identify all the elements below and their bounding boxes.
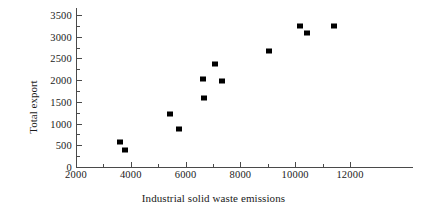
data-point — [266, 48, 272, 53]
y-tick-2500 — [77, 58, 82, 59]
y-tick-label-3000: 3000 — [50, 31, 72, 42]
scatter-plot-figure: 2000400060008000100001200005001000150020… — [0, 0, 427, 214]
x-minor-tick-7000 — [213, 164, 214, 167]
x-tick-4000 — [131, 162, 132, 167]
data-point — [117, 139, 123, 144]
y-tick-0 — [77, 167, 82, 168]
x-minor-tick-5000 — [158, 164, 159, 167]
x-tick-label-4000: 4000 — [120, 169, 142, 180]
y-axis-line — [76, 8, 77, 167]
y-minor-tick-250 — [77, 156, 80, 157]
y-tick-label-500: 500 — [56, 140, 72, 151]
data-point — [176, 127, 182, 132]
y-minor-tick-1250 — [77, 113, 80, 114]
data-point — [212, 62, 218, 67]
y-tick-3000 — [77, 37, 82, 38]
y-tick-500 — [77, 145, 82, 146]
x-axis-line — [76, 167, 413, 168]
x-axis-title: Industrial solid waste emissions — [0, 192, 427, 204]
y-minor-tick-1750 — [77, 91, 80, 92]
x-tick-10000 — [295, 162, 296, 167]
data-point — [297, 23, 303, 28]
y-tick-label-2500: 2500 — [50, 53, 72, 64]
y-minor-tick-3250 — [77, 26, 80, 27]
data-point — [122, 148, 128, 153]
data-point — [331, 23, 337, 28]
data-point — [200, 77, 206, 82]
x-tick-12000 — [350, 162, 351, 167]
data-point — [201, 95, 207, 100]
x-tick-8000 — [240, 162, 241, 167]
x-minor-tick-3000 — [103, 164, 104, 167]
x-tick-label-10000: 10000 — [282, 169, 309, 180]
x-tick-label-6000: 6000 — [175, 169, 197, 180]
y-tick-label-2000: 2000 — [50, 75, 72, 86]
y-tick-label-3500: 3500 — [50, 10, 72, 21]
y-axis-title: Total export — [27, 80, 39, 133]
data-point — [304, 30, 310, 35]
y-tick-label-0: 0 — [67, 162, 72, 173]
y-tick-label-1500: 1500 — [50, 96, 72, 107]
x-minor-tick-11000 — [323, 164, 324, 167]
y-tick-1500 — [77, 102, 82, 103]
y-tick-3500 — [77, 15, 82, 16]
x-minor-tick-9000 — [268, 164, 269, 167]
y-minor-tick-750 — [77, 134, 80, 135]
y-tick-1000 — [77, 124, 82, 125]
data-point — [219, 79, 225, 84]
data-point — [167, 111, 173, 116]
y-minor-tick-2750 — [77, 48, 80, 49]
x-tick-6000 — [186, 162, 187, 167]
y-tick-label-1000: 1000 — [50, 118, 72, 129]
x-tick-label-12000: 12000 — [336, 169, 363, 180]
x-tick-label-8000: 8000 — [229, 169, 251, 180]
y-minor-tick-2250 — [77, 69, 80, 70]
y-tick-2000 — [77, 80, 82, 81]
